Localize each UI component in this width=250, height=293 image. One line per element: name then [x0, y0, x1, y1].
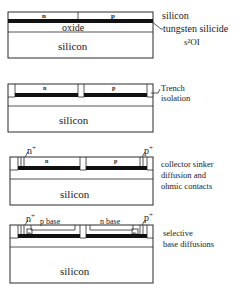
label-n-plus: n+ [27, 144, 36, 156]
silicide-left [15, 93, 78, 97]
annotation-silicon: silicon [162, 10, 189, 21]
annotation-line-3: ohmic contacts [161, 181, 212, 191]
annotation-line-2: base diffusions [163, 239, 214, 249]
process-diagram: n p oxide silicon silicon tungsten silic… [0, 0, 250, 293]
annotation-s2oi: s²OI [184, 37, 200, 47]
label-silicon-substrate: silicon [59, 114, 89, 126]
panel-1-wafer-stack: n p oxide silicon silicon tungsten silic… [8, 10, 229, 58]
annotation-line-1: selective [163, 228, 193, 238]
silicide-right [86, 166, 147, 170]
silicide-right [86, 234, 147, 238]
label-oxide: oxide [62, 22, 85, 33]
panel-3-collector-sinker: n p silicon n+ p+ collector sinker diffu… [10, 144, 214, 205]
label-silicon-substrate: silicon [60, 265, 90, 277]
annotation-line-1: collector sinker [161, 159, 214, 169]
label-p-plus: p+ [144, 211, 153, 223]
label-silicon-substrate: silicon [60, 188, 90, 200]
label-p: p [111, 12, 115, 20]
label-p-base: p base [40, 217, 61, 226]
annotation-isolation: isolation [161, 93, 191, 103]
label-n-base: n base [100, 217, 121, 226]
panel-2-trench-isolation: n p silicon Trench isolation [8, 83, 191, 132]
annotation-line-2: diffusion and [161, 170, 207, 180]
panel-4-base-diffusions: n p silicon p base n base n+ p+ selectiv… [10, 211, 214, 283]
label-silicon-substrate: silicon [58, 40, 88, 52]
annotation-tungsten-silicide: tungsten silicide [163, 23, 229, 34]
silicide-left [18, 234, 80, 238]
annotation-trench: Trench [161, 83, 186, 93]
label-p-plus: p+ [144, 144, 153, 156]
silicide-right [84, 93, 147, 97]
label-n: n [42, 12, 46, 20]
silicide-left [18, 166, 80, 170]
label-n-plus: n+ [26, 212, 35, 224]
